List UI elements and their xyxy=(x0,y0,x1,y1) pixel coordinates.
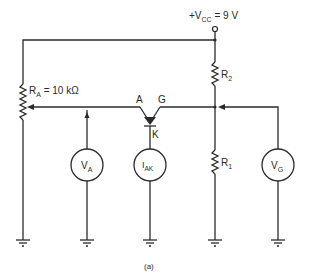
ground-icon xyxy=(16,240,30,246)
potentiometer-icon xyxy=(20,84,26,120)
resistor-r2-icon xyxy=(212,62,218,86)
scr-anode-lead xyxy=(140,107,147,118)
pot-label: RA = 10 kΩ xyxy=(29,85,79,98)
iak-label: IAK xyxy=(142,160,154,172)
ground-icon xyxy=(208,240,222,246)
r2-label: R2 xyxy=(221,69,232,82)
va-label: VA xyxy=(81,160,93,173)
voltmeter-vg xyxy=(262,149,294,181)
vcc-terminal-icon xyxy=(213,27,218,32)
scr-gate-lead xyxy=(153,107,160,118)
resistor-r1-icon xyxy=(212,150,218,174)
ground-icon xyxy=(271,240,285,246)
ground-icon xyxy=(80,240,94,246)
va-arrow-icon xyxy=(85,112,90,118)
scr-triangle-icon xyxy=(144,117,156,125)
scr-anode-label: A xyxy=(136,94,143,105)
circuit-diagram: +VCC = 9 V RA = 10 kΩ VA A G K IAK R2 VG… xyxy=(0,0,309,277)
junction-dot-gate xyxy=(213,105,216,108)
vcc-label: +VCC = 9 V xyxy=(189,10,238,23)
r1-label: R1 xyxy=(221,157,232,170)
vg-arrow-icon xyxy=(218,104,225,110)
vg-wire-top xyxy=(225,107,278,149)
wiper-arrow-icon xyxy=(27,104,34,110)
scr-cathode-label: K xyxy=(152,129,159,140)
scr-gate-label: G xyxy=(158,94,166,105)
top-wire xyxy=(23,40,215,84)
ground-icon xyxy=(143,240,157,246)
vg-label: VG xyxy=(271,160,283,173)
figure-caption: (a) xyxy=(144,262,154,271)
